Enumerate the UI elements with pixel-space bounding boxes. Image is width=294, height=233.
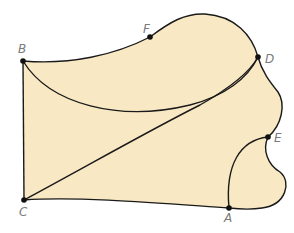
label-E: E [274, 131, 282, 145]
label-C: C [19, 205, 28, 219]
edge-C-B [23, 61, 24, 200]
label-A: A [223, 211, 232, 225]
diagram: B F D E A C [0, 0, 294, 233]
point-A [226, 205, 232, 211]
point-C [21, 197, 27, 203]
point-B [20, 58, 26, 64]
point-E [265, 134, 271, 140]
point-D [255, 54, 261, 60]
label-B: B [18, 42, 26, 56]
label-F: F [143, 22, 151, 36]
label-D: D [265, 52, 274, 66]
